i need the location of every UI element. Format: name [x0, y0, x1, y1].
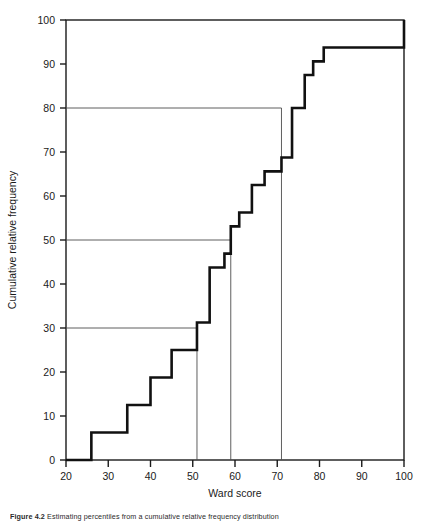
y-tick-label: 40 — [43, 278, 55, 290]
cumulative-frequency-chart: 0102030405060708090100 20304050607080901… — [0, 0, 431, 525]
y-tick-label: 20 — [43, 366, 55, 378]
figure-caption: Figure 4.2 Estimating percentiles from a… — [10, 512, 428, 521]
y-axis-ticks — [60, 20, 66, 460]
x-tick-label: 30 — [102, 470, 114, 482]
x-tick-label: 20 — [60, 470, 72, 482]
x-tick-label: 40 — [145, 470, 157, 482]
x-tick-label: 80 — [314, 470, 326, 482]
percentile-reference-lines — [66, 108, 281, 460]
y-tick-label: 10 — [43, 410, 55, 422]
x-tick-label: 50 — [187, 470, 199, 482]
y-tick-label: 50 — [43, 234, 55, 246]
y-tick-label: 100 — [37, 14, 55, 26]
x-axis-ticks — [66, 460, 404, 467]
x-tick-label: 70 — [271, 470, 283, 482]
y-axis-tick-labels: 0102030405060708090100 — [37, 14, 55, 466]
y-tick-label: 70 — [43, 146, 55, 158]
y-tick-label: 80 — [43, 102, 55, 114]
x-tick-label: 90 — [356, 470, 368, 482]
figure-caption-label: Figure 4.2 — [10, 512, 45, 521]
y-tick-label: 30 — [43, 322, 55, 334]
figure-container: 0102030405060708090100 20304050607080901… — [0, 0, 431, 525]
figure-caption-body: Estimating percentiles from a cumulative… — [47, 512, 279, 521]
y-tick-label: 0 — [49, 454, 55, 466]
y-tick-label: 90 — [43, 58, 55, 70]
x-axis-title: Ward score — [208, 487, 261, 499]
y-tick-label: 60 — [43, 190, 55, 202]
x-axis-tick-labels: 2030405060708090100 — [60, 470, 413, 482]
y-axis-title: Cumulative relative frequency — [6, 170, 18, 309]
x-tick-label: 60 — [229, 470, 241, 482]
x-tick-label: 100 — [395, 470, 413, 482]
